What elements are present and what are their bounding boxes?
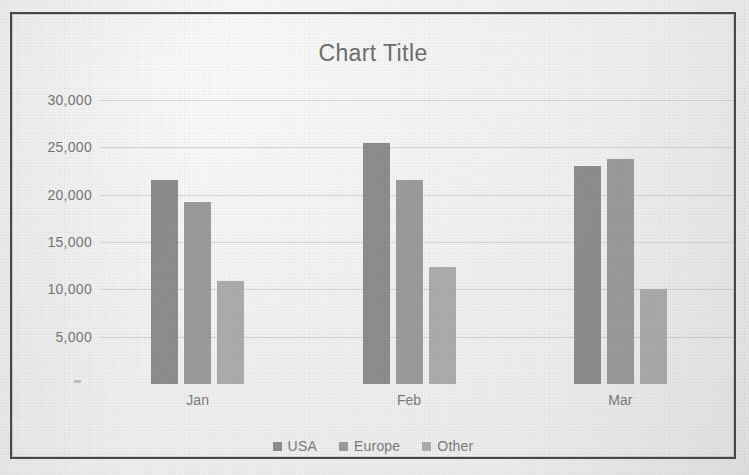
y-axis-tick-label: 5,000 <box>20 329 92 345</box>
chart-title: Chart Title <box>12 40 734 67</box>
bar[interactable] <box>396 180 423 384</box>
legend-label: Other <box>437 438 473 454</box>
legend-item[interactable]: Other <box>422 438 473 454</box>
square-swatch-icon <box>422 442 431 451</box>
bar-group <box>363 100 456 384</box>
scan-artifact <box>74 380 81 383</box>
chart-legend: USAEuropeOther <box>12 438 734 454</box>
y-axis-tick-label: 15,000 <box>20 234 92 250</box>
y-axis-tick-label: 30,000 <box>20 92 92 108</box>
legend-item[interactable]: Europe <box>339 438 400 454</box>
chart-frame: Chart Title 30,00025,00020,00015,00010,0… <box>10 12 736 459</box>
legend-label: Europe <box>354 438 400 454</box>
bar[interactable] <box>607 159 634 384</box>
y-axis-tick-label: 10,000 <box>20 281 92 297</box>
bar[interactable] <box>151 180 178 384</box>
bar-group <box>151 100 244 384</box>
legend-label: USA <box>288 438 317 454</box>
bar[interactable] <box>429 267 456 384</box>
square-swatch-icon <box>273 442 282 451</box>
y-axis-tick-label: 20,000 <box>20 187 92 203</box>
bar[interactable] <box>363 143 390 384</box>
x-axis-category-label: Jan <box>186 392 209 408</box>
x-axis-category-label: Mar <box>608 392 632 408</box>
bar[interactable] <box>574 166 601 384</box>
plot-area <box>100 100 734 384</box>
bar-group <box>574 100 667 384</box>
legend-item[interactable]: USA <box>273 438 317 454</box>
x-axis-category-label: Feb <box>397 392 421 408</box>
bar[interactable] <box>640 289 667 384</box>
bar[interactable] <box>184 202 211 384</box>
y-axis-tick-label: 25,000 <box>20 139 92 155</box>
square-swatch-icon <box>339 442 348 451</box>
bar[interactable] <box>217 281 244 384</box>
